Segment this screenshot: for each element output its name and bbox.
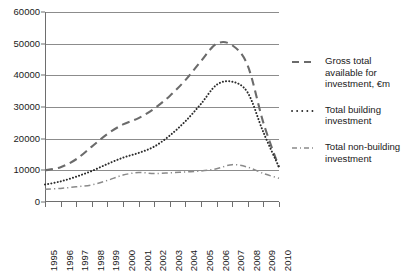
series-line-1: [45, 81, 279, 185]
x-tick-label: 2005: [205, 250, 215, 271]
x-tick-label: 1998: [96, 250, 106, 271]
legend-item-total-building: Total building investment: [292, 104, 410, 127]
x-tick-mark: [76, 202, 77, 207]
dotted-line-swatch: [292, 108, 316, 114]
dash-dot-line-swatch: [292, 145, 316, 151]
dashed-line-swatch: [292, 59, 316, 65]
x-tick-mark: [45, 202, 46, 207]
legend-item-total-non-building: Total non-building investment: [292, 141, 410, 164]
x-tick-label: 1999: [111, 250, 121, 271]
x-tick-mark: [92, 202, 93, 207]
x-tick-label: 2008: [252, 250, 262, 271]
y-tick-label: 0: [35, 197, 40, 207]
x-tick-label: 1997: [80, 250, 90, 271]
plot-area: [45, 12, 279, 202]
y-tick-mark: [41, 12, 45, 13]
series-layer: [45, 12, 279, 202]
x-tick-label: 2007: [236, 250, 246, 271]
y-tick-label: 40000: [14, 71, 40, 81]
y-axis: 0100002000030000400005000060000: [0, 0, 40, 254]
y-tick-mark: [41, 75, 45, 76]
y-tick-label: 20000: [14, 134, 40, 144]
x-tick-label: 2003: [174, 250, 184, 271]
x-tick-mark: [232, 202, 233, 207]
y-tick-label: 30000: [14, 102, 40, 112]
y-tick-label: 50000: [14, 39, 40, 49]
y-tick-label: 10000: [14, 166, 40, 176]
x-tick-mark: [185, 202, 186, 207]
x-tick-mark: [154, 202, 155, 207]
x-tick-label: 2006: [221, 250, 231, 271]
x-tick-mark: [279, 202, 280, 207]
y-tick-mark: [41, 170, 45, 171]
x-axis-labels: 1995199619971998199920002001200220032004…: [45, 208, 279, 252]
x-tick-label: 1995: [49, 250, 59, 271]
legend-item-gross-total: Gross total available for investment, €m: [292, 55, 410, 90]
x-tick-label: 2010: [283, 250, 293, 271]
x-tick-label: 2002: [158, 250, 168, 271]
y-tick-mark: [41, 107, 45, 108]
x-tick-label: 1996: [65, 250, 75, 271]
chart-legend: Gross total available for investment, €m…: [292, 55, 410, 178]
y-tick-label: 60000: [14, 7, 40, 17]
x-tick-mark: [107, 202, 108, 207]
x-tick-label: 2000: [127, 250, 137, 271]
x-tick-mark: [170, 202, 171, 207]
x-tick-mark: [248, 202, 249, 207]
x-tick-mark: [61, 202, 62, 207]
y-tick-mark: [41, 43, 45, 44]
x-tick-mark: [201, 202, 202, 207]
x-tick-mark: [139, 202, 140, 207]
legend-label-total-building: Total building investment: [325, 104, 410, 127]
x-tick-label: 2004: [189, 250, 199, 271]
legend-label-total-non-building: Total non-building investment: [325, 141, 410, 164]
x-tick-label: 2001: [143, 250, 153, 271]
y-tick-mark: [41, 138, 45, 139]
x-tick-mark: [217, 202, 218, 207]
series-line-0: [45, 42, 279, 170]
x-tick-mark: [123, 202, 124, 207]
x-tick-mark: [263, 202, 264, 207]
series-line-2: [45, 165, 279, 190]
plot-wrapper: 0100002000030000400005000060000 19951996…: [0, 0, 285, 254]
x-tick-label: 2009: [267, 250, 277, 271]
x-axis-ticks: [45, 202, 279, 207]
legend-label-gross-total: Gross total available for investment, €m: [325, 55, 410, 90]
